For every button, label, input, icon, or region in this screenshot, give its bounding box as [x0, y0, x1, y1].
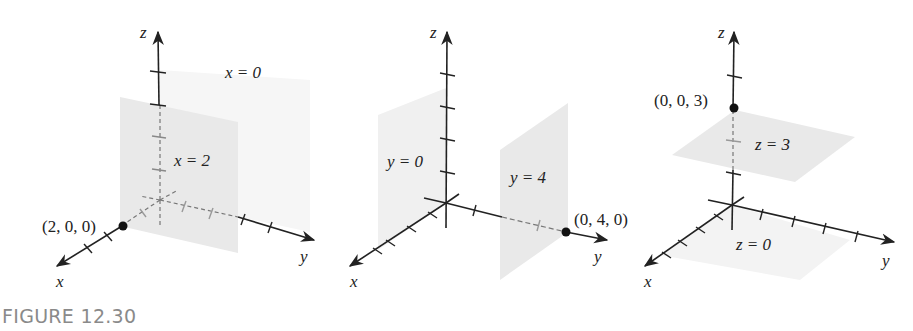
z-axis-label: z [429, 23, 437, 42]
plane-label-z0: z = 0 [735, 235, 772, 254]
z-axis [446, 32, 447, 228]
y-axis-label: y [298, 247, 308, 266]
plane-y4 [500, 103, 568, 280]
point-2-0-0 [119, 222, 128, 231]
z-axis-label: z [717, 23, 725, 42]
figure-caption: FIGURE 12.30 [2, 305, 136, 327]
z-axis [733, 32, 734, 110]
point-label: (2, 0, 0) [42, 217, 96, 236]
point-0-4-0 [562, 228, 571, 237]
y-axis-label: y [880, 251, 890, 270]
plane-x2 [120, 97, 238, 253]
z-axis [158, 32, 159, 105]
point-label: (0, 0, 3) [654, 91, 708, 110]
panel-y-planes: z x y y = 0 y = 4 (0, 4, 0) [349, 23, 628, 291]
plane-label-z3: z = 3 [754, 135, 790, 154]
z-axis-label: z [139, 23, 147, 42]
panel-x-planes: z x y x = 0 x = 2 (2, 0, 0) [42, 23, 314, 291]
plane-label-y4: y = 4 [508, 168, 547, 187]
y-axis-label: y [592, 247, 602, 266]
x-axis-label: x [643, 272, 652, 291]
point-label: (0, 4, 0) [574, 210, 628, 229]
x-axis-label: x [55, 272, 64, 291]
figure-canvas: z x y x = 0 x = 2 (2, 0, 0) [0, 0, 913, 331]
x-axis-label: x [349, 272, 358, 291]
plane-label-y0: y = 0 [385, 152, 424, 171]
plane-label-x2: x = 2 [173, 151, 211, 170]
plane-label-x0: x = 0 [224, 63, 262, 82]
panel-z-planes: z x y z = 3 z = 0 (0, 0, 3) [643, 23, 894, 291]
point-0-0-3 [730, 104, 739, 113]
